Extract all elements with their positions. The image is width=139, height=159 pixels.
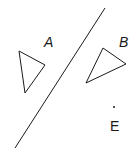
label-a: A xyxy=(43,34,53,50)
reflection-diagram: A B E xyxy=(0,0,139,159)
triangle-b xyxy=(86,48,126,83)
label-b: B xyxy=(119,34,128,50)
triangle-a xyxy=(19,51,45,93)
point-e xyxy=(113,106,115,108)
label-e: E xyxy=(110,118,119,134)
mirror-line xyxy=(15,8,105,148)
